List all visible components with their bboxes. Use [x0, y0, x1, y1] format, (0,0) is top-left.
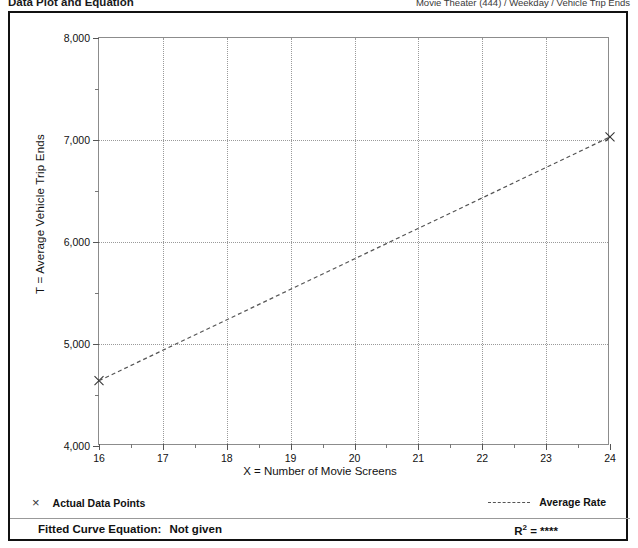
data-point-marker	[606, 132, 615, 141]
y-tick-label: 4,000	[64, 440, 90, 452]
y-tick-label: 5,000	[64, 338, 90, 350]
x-tick	[610, 444, 611, 450]
legend-label-actual-points: Actual Data Points	[53, 497, 146, 509]
x-tick-label: 16	[93, 452, 105, 464]
r-squared-label: R	[514, 525, 522, 537]
r-squared-value: R2 = ****	[514, 523, 558, 537]
fitted-curve-value: Not given	[170, 523, 222, 535]
x-tick-label: 19	[285, 452, 297, 464]
page-header-title: Data Plot and Equation	[8, 0, 134, 8]
x-tick-label: 21	[413, 452, 425, 464]
x-axis-title: X = Number of Movie Screens	[10, 465, 630, 477]
x-tick-label: 22	[476, 452, 488, 464]
legend-entry-average-rate: Average Rate	[488, 496, 606, 508]
x-tick-label: 18	[221, 452, 233, 464]
x-marker-icon: ×	[32, 496, 40, 509]
y-tick-label: 7,000	[64, 134, 90, 146]
legend-label-average-rate: Average Rate	[539, 496, 606, 508]
fitted-curve-equation: Fitted Curve Equation: Not given	[38, 523, 222, 535]
fitted-curve-label: Fitted Curve Equation:	[38, 523, 161, 535]
x-tick-label: 24	[604, 452, 616, 464]
x-tick-label: 23	[540, 452, 552, 464]
x-tick-label: 17	[157, 452, 169, 464]
y-tick-label: 6,000	[64, 236, 90, 248]
r-squared-exponent: 2	[523, 523, 527, 532]
series-layer	[99, 38, 610, 446]
chart-card: T = Average Vehicle Trip Ends X = Number…	[8, 11, 628, 541]
dashed-line-icon	[488, 502, 530, 503]
legend-entry-actual-points: × Actual Data Points	[32, 496, 145, 509]
r-squared-equals: = ****	[530, 525, 558, 537]
y-axis-title: T = Average Vehicle Trip Ends	[34, 114, 46, 314]
plot-area: 4,0005,0006,0007,0008,000161718192021222…	[98, 37, 609, 445]
page-header-subtitle: Movie Theater (444) / Weekday / Vehicle …	[416, 0, 630, 8]
equation-row: Fitted Curve Equation: Not given R2 = **…	[10, 518, 630, 544]
series-line-average-rate	[99, 137, 610, 381]
y-tick-label: 8,000	[64, 32, 90, 44]
plot-block: T = Average Vehicle Trip Ends X = Number…	[10, 13, 630, 493]
x-tick-label: 20	[349, 452, 361, 464]
chart-legend: × Actual Data Points Average Rate	[10, 492, 630, 518]
